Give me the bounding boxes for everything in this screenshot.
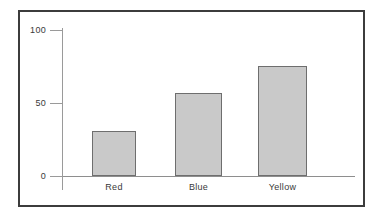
y-tick-label-0: 0 <box>20 172 46 181</box>
y-axis-line <box>62 28 63 190</box>
x-tick-label-red: Red <box>92 182 136 192</box>
y-tick-mark-0 <box>50 176 63 177</box>
y-tick-mark-50 <box>50 103 63 104</box>
bar-red[interactable] <box>92 131 136 176</box>
x-tick-label-yellow: Yellow <box>258 182 307 192</box>
plot-area: 100 50 0 Red Blue Yellow <box>0 0 382 215</box>
bar-chart-figure: 100 50 0 Red Blue Yellow <box>0 0 382 215</box>
y-tick-mark-100 <box>50 30 63 31</box>
bar-yellow[interactable] <box>258 66 307 176</box>
bar-blue[interactable] <box>175 93 222 176</box>
y-tick-label-50: 50 <box>20 99 46 108</box>
x-axis-line <box>50 176 355 177</box>
y-tick-label-100: 100 <box>20 26 46 35</box>
x-tick-label-blue: Blue <box>175 182 222 192</box>
